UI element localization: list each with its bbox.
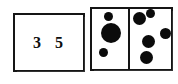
numeral-card[interactable]: 3 5 [13, 13, 85, 72]
dot [101, 23, 121, 43]
dot [104, 12, 113, 21]
dot [160, 28, 171, 39]
stage: 3 5 [0, 0, 178, 84]
dot [140, 51, 153, 64]
dot [99, 48, 108, 57]
numeral-value: 3 5 [30, 35, 68, 51]
dot [142, 35, 155, 48]
dot-cell-left[interactable] [92, 9, 128, 69]
dot-cell-right[interactable] [130, 9, 171, 69]
dot [146, 9, 155, 18]
dot [133, 12, 146, 25]
dot-card[interactable] [90, 7, 173, 71]
